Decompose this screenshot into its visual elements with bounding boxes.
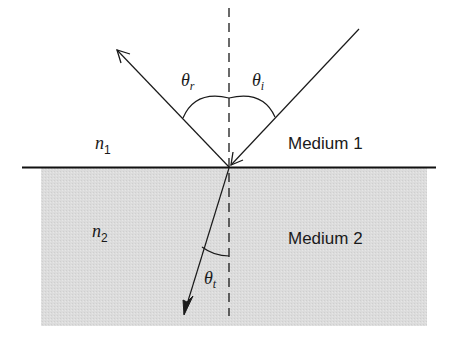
reflected-ray (117, 50, 229, 167)
n1-label: n1 (95, 133, 111, 157)
theta-i-label: θi (252, 70, 264, 93)
medium-2-label: Medium 2 (288, 229, 363, 248)
theta-r-label: θr (181, 70, 195, 93)
refraction-diagram: θr θi θt n1 n2 Medium 1 Medium 2 (0, 0, 457, 341)
theta-i-arc (229, 96, 275, 117)
medium-2-region (41, 168, 427, 326)
theta-r-arc (183, 96, 229, 118)
medium-1-label: Medium 1 (288, 134, 363, 153)
